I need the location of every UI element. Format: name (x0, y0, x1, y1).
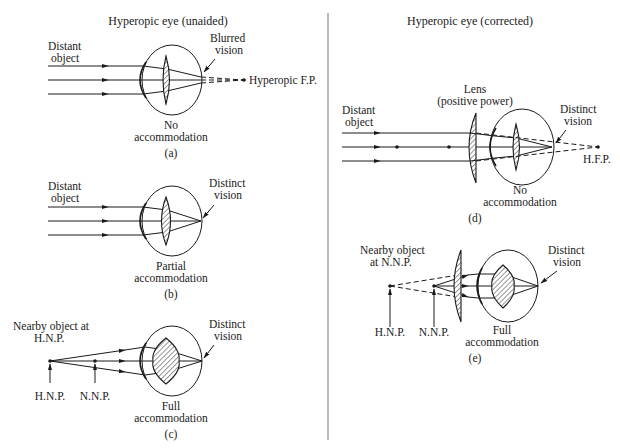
pointer-arrow (556, 130, 566, 143)
accommodation-label: Full (493, 324, 512, 336)
hnp-label: H.N.P. (35, 390, 65, 402)
retina-label: Blurred (210, 32, 245, 44)
hyperopia-figure: Hyperopic eye (unaided) Hyperopic eye (c… (0, 0, 620, 448)
retina-label: vision (553, 256, 581, 268)
panel-a: Distant object Hyperopic F.P. Blurred vi… (48, 32, 317, 160)
object-label: object (51, 192, 80, 205)
panel-caption: (a) (165, 147, 178, 160)
accommodation-label: Partial (156, 260, 186, 272)
hfp-label: H.F.P. (583, 153, 611, 165)
retina-label: vision (214, 189, 242, 201)
accommodation-label: accommodation (483, 196, 557, 208)
pointer-arrow (204, 345, 214, 358)
accommodation-label: accommodation (134, 131, 208, 143)
retina-label: vision (214, 330, 242, 342)
virtual-ray (390, 275, 458, 286)
object-label: at N.N.P. (370, 256, 412, 268)
corrective-lens (469, 113, 476, 183)
object-label: Distant (48, 40, 82, 52)
accommodation-label: No (164, 119, 178, 131)
panel-c: Nearby object at H.N.P. H.N.P. N.N.P. Di… (13, 318, 246, 441)
panel-caption: (d) (468, 212, 482, 225)
right-column-title: Hyperopic eye (corrected) (407, 14, 533, 28)
accommodation-label: accommodation (134, 272, 208, 284)
ray-point (395, 145, 399, 149)
retina-label: vision (564, 115, 592, 127)
pointer-arrow (541, 271, 557, 283)
pointer-arrow (204, 59, 215, 72)
object-label: Distant (342, 104, 376, 116)
ray-point (447, 145, 451, 149)
focal-point-label: Hyperopic F.P. (249, 74, 317, 87)
retina-label: Distinct (560, 103, 597, 115)
object-label: object (345, 116, 374, 129)
lens-label: Lens (464, 83, 487, 95)
hfp-point (596, 145, 600, 149)
nnp-label: N.N.P. (80, 390, 110, 402)
object-label: H.N.P. (34, 332, 64, 344)
accommodation-label: Full (162, 400, 181, 412)
corrective-lens (454, 250, 461, 322)
pointer-arrow (203, 205, 214, 218)
panel-caption: (b) (164, 288, 178, 301)
crystalline-lens (162, 197, 171, 245)
retina-label: Distinct (209, 318, 246, 330)
object-label: object (51, 52, 80, 65)
retina-label: Distinct (548, 244, 585, 256)
retina-label: vision (215, 44, 243, 56)
accommodation-label: accommodation (134, 412, 208, 424)
hnp-label: H.N.P. (375, 326, 405, 338)
panel-caption: (c) (165, 428, 178, 441)
accommodation-label: No (513, 184, 527, 196)
panel-e: Nearby object at N.N.P. H.N.P. N.N.P. Di… (360, 244, 585, 365)
nnp-label: N.N.P. (419, 326, 449, 338)
focal-point-dot (242, 78, 246, 82)
virtual-ray (476, 133, 598, 147)
retina-label: Distinct (209, 177, 246, 189)
accommodation-label: accommodation (465, 336, 539, 348)
crystalline-lens (492, 265, 515, 308)
panel-caption: (e) (469, 352, 482, 365)
panel-d: Lens (positive power) Distant object H.F… (342, 83, 611, 225)
panel-b: Distant object Distinct vision Partial a… (48, 177, 246, 301)
object-label: Distant (48, 180, 82, 192)
crystalline-lens (513, 124, 520, 170)
left-column-title: Hyperopic eye (unaided) (108, 14, 227, 28)
crystalline-lens (153, 338, 179, 384)
lens-label: (positive power) (437, 95, 513, 108)
crystalline-lens (163, 56, 170, 104)
